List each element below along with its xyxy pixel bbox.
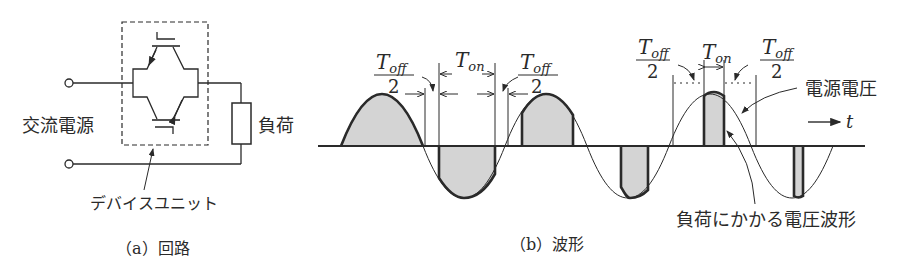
figure: 交流電源 負荷 デバイスユニット （a）回路 (0, 0, 901, 278)
load-label: 負荷 (258, 115, 294, 136)
terminal-bottom (65, 160, 73, 168)
t-on-label-1: Ton (455, 48, 485, 74)
source-label: 交流電源 (22, 115, 94, 136)
time-axis-label: t (846, 111, 854, 132)
circuit-caption: （a）回路 (116, 239, 190, 258)
t-off-half-label-2: Toff 2 (518, 50, 558, 97)
svg-text:Ton: Ton (702, 40, 732, 66)
load-resistor (232, 103, 251, 144)
svg-text:Toff: Toff (520, 50, 553, 76)
t-on-label-2: Ton (702, 40, 732, 66)
top-emitter-arrow-icon (149, 50, 156, 65)
svg-text:Toff: Toff (376, 50, 409, 76)
device-unit-leader-arrow-icon (144, 149, 153, 190)
t-off-half-label-1: Toff 2 (374, 50, 414, 97)
svg-text:Ton: Ton (455, 48, 485, 74)
terminal-top (65, 79, 73, 87)
bidirectional-switch (133, 32, 198, 134)
load-voltage-leader-arrow-icon (727, 131, 755, 204)
svg-text:Toff: Toff (638, 35, 671, 61)
device-unit-label: デバイスユニット (90, 194, 218, 213)
dimension-arrows-2 (674, 65, 755, 83)
svg-text:2: 2 (771, 61, 782, 82)
waveform-diagram: Toff 2 Ton Toff 2 Toff 2 Ton Toff 2 電源電圧 (318, 35, 877, 254)
supply-voltage-leader-arrow-icon (742, 88, 797, 113)
circuit-diagram: 交流電源 負荷 デバイスユニット （a）回路 (22, 22, 294, 258)
svg-text:2: 2 (531, 76, 542, 97)
waveform-caption: （b）波形 (510, 235, 584, 254)
svg-text:Toff: Toff (762, 35, 795, 61)
supply-voltage-label: 電源電圧 (805, 78, 877, 99)
bottom-emitter-arrow-icon (175, 100, 182, 116)
svg-text:2: 2 (388, 76, 399, 97)
t-off-half-label-4: Toff 2 (760, 35, 795, 82)
load-voltage-label: 負荷にかかる電圧波形 (676, 209, 856, 230)
wires (73, 83, 241, 164)
t-off-half-label-3: Toff 2 (636, 35, 671, 82)
svg-text:2: 2 (647, 61, 658, 82)
dimension-arrows-1 (405, 74, 528, 94)
